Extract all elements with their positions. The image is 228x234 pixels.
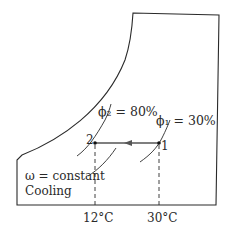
rh-label-1: ϕ₁ = 30%	[156, 113, 216, 128]
state-label-2: 2	[86, 133, 94, 147]
state-point-2	[93, 141, 97, 145]
temperature-label-12C: 12°C	[83, 211, 113, 225]
constraint-label: ω = constant	[25, 169, 105, 183]
state-label-1: 1	[161, 139, 169, 153]
process-arrow-icon	[124, 140, 132, 146]
rh-label-2: ϕ₂ = 80%	[98, 104, 158, 119]
process-label: Cooling	[25, 184, 72, 198]
temperature-label-30C: 30°C	[147, 211, 177, 225]
psychrometric-chart: ϕ₂ = 80% ϕ₁ = 30% 2 1 ω = constant Cooli…	[0, 0, 228, 234]
